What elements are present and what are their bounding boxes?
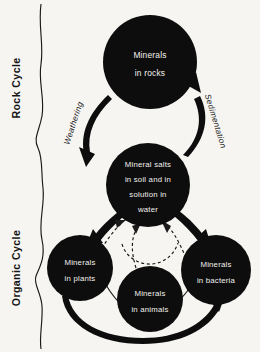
weathering-label: Weathering <box>62 100 84 145</box>
node-text-plants-line1: Minerals <box>64 258 95 267</box>
node-text-salts-line1: Mineral salts <box>125 160 171 169</box>
node-minerals-in-bacteria[interactable]: Minerals in bacteria <box>181 235 251 305</box>
node-text-plants-line2: in plants <box>65 274 96 283</box>
node-mineral-salts[interactable]: Mineral salts in soil and in solution in… <box>106 143 190 227</box>
node-text-salts-line3: solution in <box>129 190 166 199</box>
arrowhead-plants-to-salts <box>115 220 126 228</box>
node-minerals-in-animals[interactable]: Minerals in animals <box>117 266 183 332</box>
node-circle-minerals-in-bacteria <box>181 235 251 305</box>
rock-cycle-label: Rock Cycle <box>10 57 22 118</box>
section-label-rock-cycle: Rock Cycle <box>10 57 22 118</box>
node-minerals-in-rocks[interactable]: Minerals in rocks <box>103 15 197 109</box>
sedimentation-label: Sedimentation <box>203 93 228 150</box>
node-text-animals-line1: Minerals <box>134 289 165 298</box>
section-label-organic-cycle: Organic Cycle <box>10 230 22 306</box>
mineral-cycle-diagram: Rock Cycle Organic Cycle Weathering Sedi… <box>0 0 260 352</box>
section-divider-brace <box>35 4 43 349</box>
arrow-inner-loop <box>122 243 178 264</box>
node-minerals-in-plants[interactable]: Minerals in plants <box>47 235 113 301</box>
node-circle-minerals-in-plants <box>47 235 113 301</box>
node-text-bacteria-line2: in bacteria <box>197 276 236 285</box>
node-text-salts-line2: in soil and in <box>125 175 171 184</box>
arrow-salts-to-rocks <box>183 96 205 157</box>
arrow-rocks-to-salts <box>83 95 112 154</box>
node-circle-mineral-salts <box>106 143 190 227</box>
node-circle-minerals-in-rocks <box>103 15 197 109</box>
node-text-rocks-line2: in rocks <box>135 68 165 78</box>
organic-cycle-label: Organic Cycle <box>10 230 22 306</box>
arrow-animals-to-salts <box>132 228 137 268</box>
node-circle-minerals-in-animals <box>117 266 183 332</box>
diagram-page: Rock Cycle Organic Cycle Weathering Sedi… <box>0 0 260 352</box>
node-text-salts-line4: water <box>137 205 158 214</box>
node-text-rocks-line1: Minerals <box>133 50 166 60</box>
node-text-animals-line2: in animals <box>131 305 168 314</box>
node-text-bacteria-line1: Minerals <box>200 260 231 269</box>
